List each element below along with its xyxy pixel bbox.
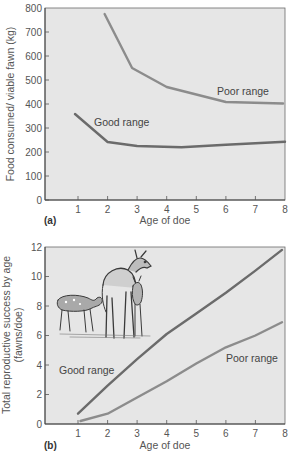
x-tick-label: 5 — [194, 428, 200, 439]
x-tick-label: 5 — [194, 204, 200, 215]
x-tick-label: 1 — [75, 204, 81, 215]
y-tick-label: 800 — [25, 3, 42, 14]
panel-label-b: (b) — [44, 440, 57, 451]
x-tick-label: 2 — [105, 204, 111, 215]
y-tick-label: 400 — [25, 99, 42, 110]
x-tick-label: 2 — [105, 428, 111, 439]
y-tick-label: 4 — [36, 360, 42, 371]
x-axis-label-a: Age of doe — [140, 214, 191, 226]
y-tick-label: 100 — [25, 171, 42, 182]
series-label-good-range-a: Good range — [94, 116, 150, 128]
x-tick-label: 3 — [134, 428, 140, 439]
plot-area-a — [45, 8, 285, 200]
x-tick-label: 8 — [282, 204, 288, 215]
x-tick-label: 7 — [253, 428, 259, 439]
y-tick-label: 0 — [36, 419, 42, 430]
x-tick-labels-b: 1 2 3 4 5 6 7 8 — [75, 428, 288, 439]
panel-label-a: (a) — [44, 215, 56, 226]
x-axis-label-b: Age of doe — [140, 439, 191, 451]
x-tick-label: 7 — [253, 204, 259, 215]
y-axis-label-b-line1: Total reproductive success by age — [0, 256, 12, 414]
x-tick-label: 1 — [75, 428, 81, 439]
series-label-poor-range-b: Poor range — [226, 352, 278, 364]
chart-panel-a: 0 100 200 300 400 500 600 700 800 1 2 3 … — [4, 3, 288, 227]
y-axis-label-a: Food consumed/ viable fawn (kg) — [4, 27, 16, 182]
figure: 0 100 200 300 400 500 600 700 800 1 2 3 … — [0, 0, 293, 458]
y-tick-label: 0 — [36, 195, 42, 206]
y-tick-label: 2 — [36, 389, 42, 400]
y-tick-label: 300 — [25, 123, 42, 134]
y-tick-labels-a: 0 100 200 300 400 500 600 700 800 — [25, 3, 42, 206]
x-tick-label: 6 — [223, 204, 229, 215]
x-tick-label: 8 — [282, 428, 288, 439]
y-tick-label: 600 — [25, 51, 42, 62]
chart-panel-b: 0 2 4 6 8 10 12 1 2 3 4 5 6 7 8 — [0, 242, 288, 452]
y-tick-labels-b: 0 2 4 6 8 10 12 — [31, 242, 43, 430]
y-tick-label: 10 — [31, 271, 43, 282]
series-label-good-range-b: Good range — [59, 364, 115, 376]
x-tick-label: 4 — [164, 428, 170, 439]
series-label-poor-range-a: Poor range — [217, 85, 269, 97]
y-tick-label: 6 — [36, 330, 42, 341]
y-axis-label-b-line2: (fawns/doe) — [12, 308, 24, 363]
y-tick-label: 8 — [36, 301, 42, 312]
y-tick-label: 500 — [25, 75, 42, 86]
y-tick-label: 200 — [25, 147, 42, 158]
x-tick-label: 6 — [223, 428, 229, 439]
y-tick-label: 12 — [31, 242, 43, 253]
y-tick-label: 700 — [25, 27, 42, 38]
